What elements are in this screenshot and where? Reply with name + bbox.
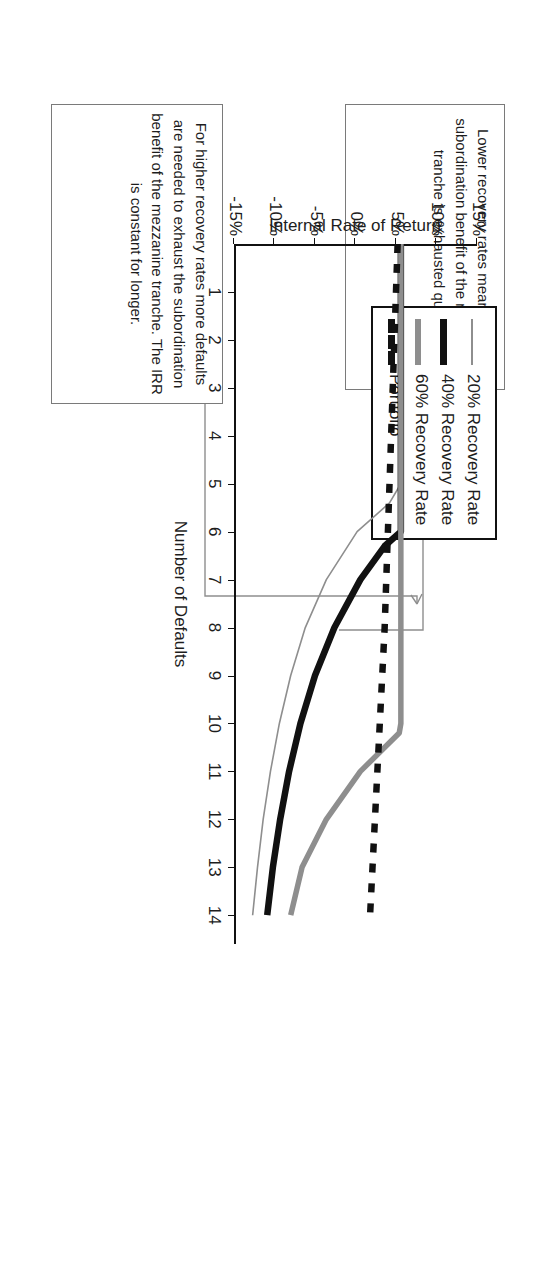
x-tick-label-9: 9: [204, 661, 224, 691]
x-tick-label-11: 11: [204, 756, 224, 786]
x-tick-label-2: 2: [204, 325, 224, 355]
series-line-thick-black: [267, 244, 401, 915]
figure-page: For higher recovery rates more defaults …: [0, 0, 535, 1263]
x-tick-label-5: 5: [204, 469, 224, 499]
x-tick-label-12: 12: [204, 804, 224, 834]
y-axis-title: Internal Rate of Return: [270, 216, 442, 236]
x-tick-label-3: 3: [204, 373, 224, 403]
x-tick-label-13: 13: [204, 852, 224, 882]
x-tick-label-14: 14: [204, 900, 224, 930]
series-curves: [234, 244, 477, 944]
annotation-higher-recovery: For higher recovery rates more defaults …: [51, 104, 223, 404]
x-tick-label-8: 8: [204, 613, 224, 643]
x-tick-label-4: 4: [204, 421, 224, 451]
y-tick-label-0: 15%: [468, 186, 488, 236]
x-tick-label-10: 10: [204, 708, 224, 738]
annotation-higher-recovery-text: For higher recovery rates more defaults …: [115, 105, 222, 403]
chart-stage: For higher recovery rates more defaults …: [0, 0, 535, 1263]
x-axis-title: Number of Defaults: [170, 244, 190, 944]
plot-area: 1234567891011121314 15%10%5%0%-5%-10%-15…: [234, 244, 477, 944]
x-tick-label-6: 6: [204, 517, 224, 547]
y-tick-label-6: -15%: [225, 186, 245, 236]
series-line-dashed-black: [370, 244, 398, 915]
x-tick-label-7: 7: [204, 565, 224, 595]
series-line-thick-gray: [291, 244, 401, 915]
x-tick-label-1: 1: [204, 277, 224, 307]
